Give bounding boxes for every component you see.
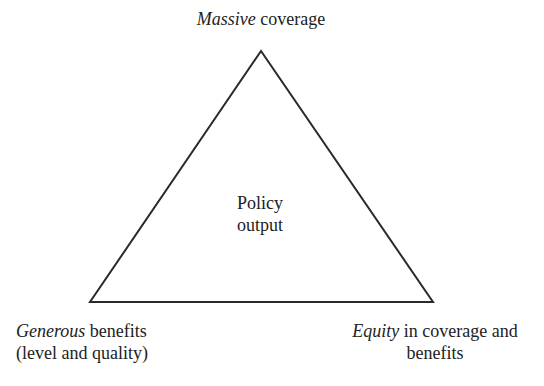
bottom-right-line2: benefits: [328, 342, 542, 364]
center-label-line2: output: [200, 214, 320, 236]
bottom-left-line2: (level and quality): [16, 342, 148, 364]
top-vertex-text: coverage: [256, 9, 325, 29]
policy-triangle-diagram: Massive coverage Policy output Generous …: [0, 0, 544, 386]
bottom-right-emphasis: Equity: [352, 321, 399, 341]
bottom-right-text: in coverage and: [399, 321, 517, 341]
top-vertex-label: Massive coverage: [0, 8, 522, 30]
center-label-line1: Policy: [200, 192, 320, 214]
bottom-right-vertex-label: Equity in coverage and benefits: [328, 320, 542, 364]
top-vertex-emphasis: Massive: [197, 9, 256, 29]
center-label: Policy output: [200, 192, 320, 236]
bottom-left-emphasis: Generous: [16, 321, 85, 341]
bottom-left-vertex-label: Generous benefits (level and quality): [16, 320, 148, 364]
bottom-left-text: benefits: [85, 321, 146, 341]
